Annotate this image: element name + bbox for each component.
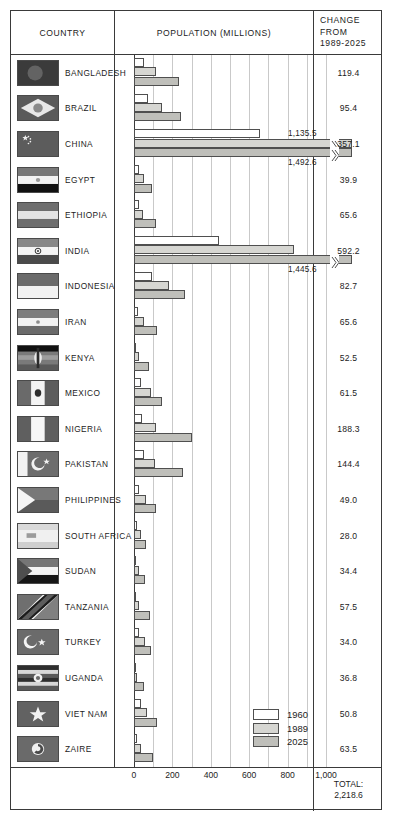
country-name: ZAIRE — [65, 744, 92, 754]
change-value: 592.2 — [314, 246, 383, 256]
bar-value-label: 1,492.6 — [288, 158, 317, 167]
footer-left-spacer — [11, 768, 314, 811]
bar-turkey-2025 — [134, 646, 151, 655]
flag-brazil-icon — [17, 95, 59, 121]
header-change-line2: FROM — [314, 27, 389, 39]
bar-pakistan-1960 — [134, 450, 144, 459]
gridline-200 — [172, 55, 173, 767]
legend-swatch-1960 — [253, 709, 279, 720]
country-name: PHILIPPINES — [65, 495, 121, 505]
change-value: 95.4 — [314, 103, 383, 113]
bar-viet-nam-1960 — [134, 699, 141, 708]
flag-turkey-icon — [17, 629, 59, 655]
population-table: COUNTRY POPULATION (MILLIONS) CHANGE FRO… — [10, 10, 382, 810]
flag-kenya-icon — [17, 345, 59, 371]
bar-value-label: 1,445.6 — [288, 265, 317, 274]
change-value: 34.4 — [314, 566, 383, 576]
flag-sudan-icon — [17, 558, 59, 584]
country-name: SUDAN — [65, 566, 96, 576]
bar-mexico-1989 — [134, 388, 151, 397]
bar-philippines-1960 — [134, 485, 139, 494]
flag-indonesia-icon — [17, 273, 59, 299]
country-name: TURKEY — [65, 637, 101, 647]
change-value: 34.0 — [314, 637, 383, 647]
flag-pakistan-icon — [17, 451, 59, 477]
bar-mexico-2025 — [134, 397, 162, 406]
flag-china-icon — [17, 131, 59, 157]
flag-south-africa-icon — [17, 523, 59, 549]
bar-nigeria-2025 — [134, 433, 192, 442]
legend-swatch-1989 — [253, 723, 279, 734]
bar-brazil-1960 — [134, 94, 148, 103]
bar-south-africa-1960 — [134, 521, 137, 530]
table-footer: TOTAL: 2,218.6 — [11, 767, 381, 811]
change-value: 144.4 — [314, 459, 383, 469]
change-value: 65.6 — [314, 210, 383, 220]
change-value: 61.5 — [314, 388, 383, 398]
change-value: 28.0 — [314, 531, 383, 541]
country-name: KENYA — [65, 353, 95, 363]
country-name: NIGERIA — [65, 424, 102, 434]
bar-zaire-1989 — [134, 744, 141, 753]
header-change-line1: CHANGE — [314, 15, 389, 27]
header-population: POPULATION (MILLIONS) — [115, 11, 314, 54]
bar-iran-1989 — [134, 317, 144, 326]
country-name: PAKISTAN — [65, 459, 108, 469]
bar-indonesia-1960 — [134, 272, 152, 281]
table-header: COUNTRY POPULATION (MILLIONS) CHANGE FRO… — [11, 11, 381, 55]
country-column: BANGLADESHBRAZILCHINAEGYPTETHIOPIAINDIAI… — [11, 55, 115, 767]
bar-philippines-2025 — [134, 504, 156, 513]
total-value: 2,218.6 — [334, 790, 363, 801]
bar-iran-2025 — [134, 326, 157, 335]
flag-mexico-icon — [17, 380, 59, 406]
bar-philippines-1989 — [134, 495, 146, 504]
gridline-500 — [230, 55, 231, 767]
bar-kenya-1989 — [134, 352, 139, 361]
country-name: INDONESIA — [65, 281, 115, 291]
bar-egypt-1989 — [134, 174, 144, 183]
bar-india-1960 — [134, 236, 219, 245]
change-value: 63.5 — [314, 744, 383, 754]
bar-sudan-1960 — [134, 556, 136, 565]
legend-label: 1960 — [287, 709, 308, 720]
country-name: UGANDA — [65, 673, 103, 683]
bar-ethiopia-1989 — [134, 210, 143, 219]
bar-south-africa-1989 — [134, 530, 141, 539]
bar-sudan-2025 — [134, 575, 145, 584]
bar-tanzania-1989 — [134, 601, 139, 610]
gridline-100 — [153, 55, 154, 767]
bar-nigeria-1960 — [134, 414, 142, 423]
gridline-700 — [268, 55, 269, 767]
bar-uganda-2025 — [134, 682, 144, 691]
bar-turkey-1989 — [134, 637, 145, 646]
gridline-300 — [192, 55, 193, 767]
bar-brazil-2025 — [134, 112, 181, 121]
bar-egypt-1960 — [134, 165, 139, 174]
change-value: 39.9 — [314, 175, 383, 185]
total-label: TOTAL: — [334, 779, 363, 790]
bar-viet-nam-2025 — [134, 718, 157, 727]
country-name: TANZANIA — [65, 602, 109, 612]
bar-nigeria-1989 — [134, 423, 156, 432]
country-name: IRAN — [65, 317, 87, 327]
bar-tanzania-2025 — [134, 611, 150, 620]
legend-label: 1989 — [287, 723, 308, 734]
bar-south-africa-2025 — [134, 540, 146, 549]
bar-china-1960 — [134, 129, 260, 138]
flag-egypt-icon — [17, 167, 59, 193]
bar-iran-1960 — [134, 307, 138, 316]
change-value: 188.3 — [314, 424, 383, 434]
change-value: 119.4 — [314, 68, 383, 78]
header-change-line3: 1989-2025 — [314, 38, 389, 50]
country-name: BRAZIL — [65, 103, 97, 113]
gridline-400 — [211, 55, 212, 767]
bar-ethiopia-1960 — [134, 200, 139, 209]
bar-pakistan-2025 — [134, 468, 183, 477]
country-name: VIET NAM — [65, 709, 108, 719]
bar-bangladesh-2025 — [134, 77, 179, 86]
bar-uganda-1989 — [134, 673, 137, 682]
change-value: 57.5 — [314, 602, 383, 612]
change-column: 119.495.4357.139.965.6592.282.765.652.56… — [314, 55, 383, 767]
footer-total: TOTAL: 2,218.6 — [314, 768, 383, 811]
bar-india-1989 — [134, 245, 294, 254]
